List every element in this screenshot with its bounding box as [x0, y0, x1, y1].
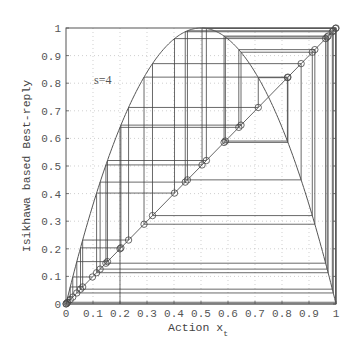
x-tick-label: 0.2: [110, 308, 130, 320]
x-tick-label: 0.6: [218, 308, 238, 320]
y-axis-ticks: 00.10.20.30.40.50.60.70.80.91: [41, 23, 336, 311]
x-tick-label: 0.5: [191, 308, 211, 320]
x-tick-label: 1: [333, 308, 340, 320]
y-tick-label: 1: [54, 23, 61, 35]
cobweb-chart: 00.10.20.30.40.50.60.70.80.91 00.10.20.3…: [0, 0, 363, 363]
y-tick-label: 0.1: [41, 271, 61, 283]
x-tick-label: 0.7: [245, 308, 265, 320]
x-axis-label-main: Action x: [168, 321, 223, 334]
y-tick-label: 0.9: [41, 51, 61, 63]
y-tick-label: 0.6: [41, 133, 61, 145]
x-axis-label-subscript: t: [223, 329, 228, 338]
y-tick-label: 0.8: [41, 78, 61, 90]
x-tick-label: 0.4: [164, 308, 184, 320]
y-tick-label: 0.2: [41, 244, 61, 256]
y-tick-label: 0.4: [41, 189, 61, 201]
x-tick-label: 0.8: [272, 308, 292, 320]
x-tick-label: 0.3: [137, 308, 157, 320]
y-tick-label: 0.7: [41, 106, 61, 118]
y-tick-label: 0.3: [41, 216, 61, 228]
parameter-annotation: s=4: [94, 73, 111, 87]
x-tick-label: 0.9: [299, 308, 319, 320]
x-tick-label: 0.1: [83, 308, 103, 320]
x-tick-label: 0: [63, 308, 70, 320]
y-axis-label: Isikhawa based Best-reply: [20, 80, 33, 253]
y-tick-label: 0.5: [41, 161, 61, 173]
x-axis-label: Action xt: [168, 321, 228, 338]
y-tick-label: 0: [54, 299, 61, 311]
